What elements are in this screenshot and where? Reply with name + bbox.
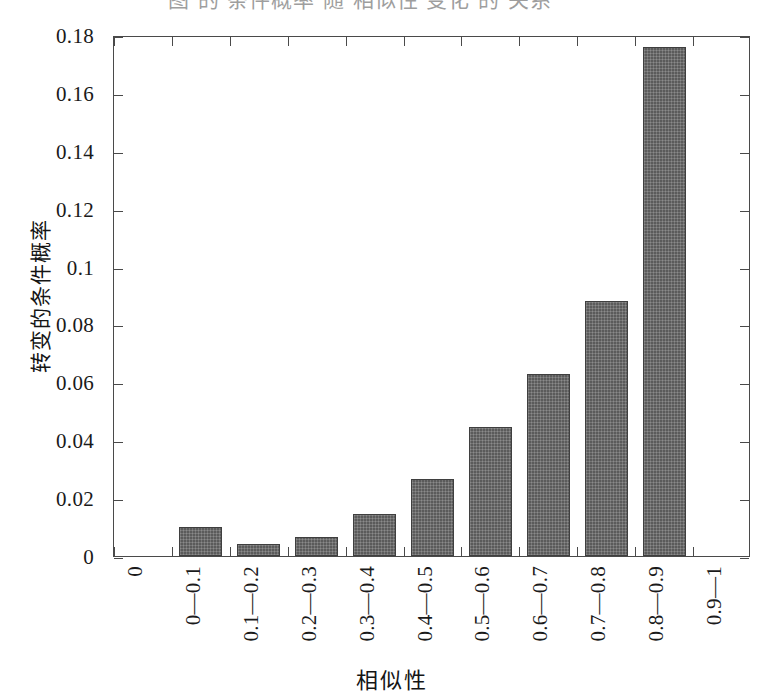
y-tick-mark: [740, 269, 749, 270]
y-tick-label: 0.08: [56, 313, 94, 338]
x-tick-mark: [172, 37, 173, 46]
x-tick-mark: [577, 547, 578, 556]
x-axis-title: 相似性: [0, 662, 784, 694]
x-tick-mark: [461, 547, 462, 556]
y-tick-mark: [740, 384, 749, 385]
x-tick-label: 0: [123, 566, 148, 577]
x-tick-label: 0.9—1: [702, 566, 727, 625]
x-tick-label: 0.7—0.8: [586, 566, 611, 642]
y-tick-mark: [740, 326, 749, 327]
x-tick-mark: [519, 37, 520, 46]
y-axis-title: 转变的条件概率: [24, 219, 54, 373]
y-tick-label: 0: [83, 545, 94, 570]
x-tick-mark: [635, 37, 636, 46]
y-tick-mark: [114, 37, 123, 38]
x-tick-label: 0.1—0.2: [239, 566, 264, 642]
y-tick-mark: [740, 500, 749, 501]
y-tick-mark: [740, 558, 749, 559]
x-tick-label: 0.5—0.6: [470, 566, 495, 642]
x-tick-label: 0.3—0.4: [355, 566, 380, 642]
bar: [237, 544, 280, 556]
x-tick-mark: [461, 37, 462, 46]
y-tick-mark: [114, 326, 123, 327]
y-tick-mark: [740, 442, 749, 443]
y-tick-mark: [114, 442, 123, 443]
y-tick-label: 0.1: [67, 255, 94, 280]
x-tick-label: 0.2—0.3: [297, 566, 322, 642]
bar: [295, 537, 338, 556]
y-tick-mark: [114, 153, 123, 154]
y-tick-mark: [740, 95, 749, 96]
x-tick-label: 0.4—0.5: [413, 566, 438, 642]
x-tick-mark: [577, 37, 578, 46]
y-tick-label: 0.02: [56, 487, 94, 512]
bars-layer: [114, 37, 749, 556]
x-tick-mark: [230, 547, 231, 556]
x-tick-label: 0.8—0.9: [644, 566, 669, 642]
y-tick-mark: [740, 37, 749, 38]
x-tick-mark: [114, 37, 115, 46]
y-tick-mark: [114, 500, 123, 501]
y-tick-label: 0.16: [56, 81, 94, 106]
y-tick-mark: [740, 211, 749, 212]
bar: [469, 427, 512, 556]
bar: [527, 374, 570, 556]
x-tick-mark: [404, 547, 405, 556]
x-tick-mark: [288, 547, 289, 556]
x-tick-mark: [693, 37, 694, 46]
bar: [411, 479, 454, 556]
x-tick-label: 0.6—0.7: [528, 566, 553, 642]
x-tick-mark: [635, 547, 636, 556]
bar-chart-figure: 转变的条件概率 00.020.040.060.080.10.120.140.16…: [0, 0, 784, 698]
y-tick-mark: [114, 558, 123, 559]
x-tick-mark: [114, 547, 115, 556]
x-tick-mark: [288, 37, 289, 46]
y-tick-label: 0.04: [56, 429, 94, 454]
y-tick-mark: [114, 95, 123, 96]
y-tick-label: 0.06: [56, 371, 94, 396]
y-tick-label: 0.14: [56, 139, 94, 164]
x-tick-mark: [404, 37, 405, 46]
x-tick-mark: [230, 37, 231, 46]
y-tick-mark: [114, 384, 123, 385]
y-tick-mark: [114, 269, 123, 270]
y-tick-mark: [114, 211, 123, 212]
x-tick-label: 0—0.1: [181, 566, 206, 625]
x-tick-mark: [519, 547, 520, 556]
x-tick-mark: [693, 547, 694, 556]
bar: [643, 47, 686, 556]
y-tick-mark: [740, 153, 749, 154]
bar: [179, 527, 222, 556]
x-tick-mark: [346, 37, 347, 46]
y-tick-label: 0.18: [56, 24, 94, 49]
plot-area: [113, 36, 750, 557]
x-tick-mark: [172, 547, 173, 556]
y-tick-label: 0.12: [56, 197, 94, 222]
x-tick-mark: [346, 547, 347, 556]
bar: [353, 514, 396, 556]
bar: [585, 301, 628, 556]
